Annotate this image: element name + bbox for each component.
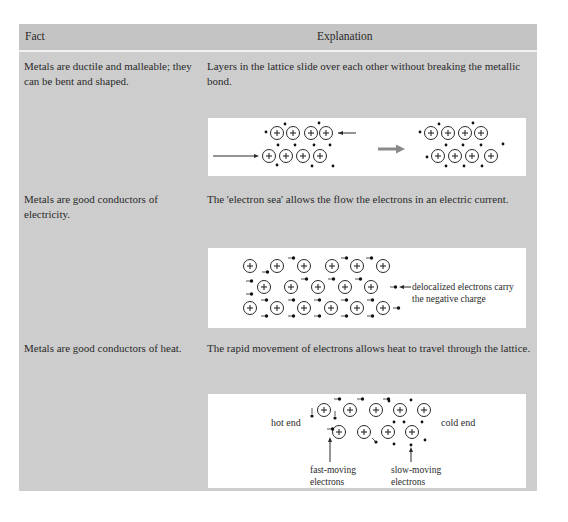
label-fast-electrons: electrons	[310, 477, 345, 487]
lattice-sliding-illustration	[208, 118, 526, 176]
explanation-ductile: Layers in the lattice slide over each ot…	[207, 59, 532, 89]
label-hot-end: hot end	[271, 417, 301, 428]
label-cold-end: cold end	[441, 417, 475, 428]
diagram-electron-flow: delocalized electrons carry the negative…	[208, 248, 526, 328]
fact-heat: Metals are good conductors of heat.	[24, 341, 194, 356]
electron-sea-illustration: delocalized electrons carry the negative…	[208, 248, 526, 328]
annotation-delocalized: delocalized electrons carry	[412, 282, 514, 292]
explanation-heat: The rapid movement of electrons allows h…	[207, 341, 532, 356]
facts-table: Fact Explanation Metals are ductile and …	[19, 24, 537, 491]
diagram-heat-conduction: hot end cold end fas	[208, 394, 526, 488]
annotation-negative-charge: the negative charge	[412, 294, 486, 304]
table-header: Fact Explanation	[19, 24, 537, 52]
fact-ductile: Metals are ductile and malleable; they c…	[24, 59, 194, 89]
header-explanation: Explanation	[317, 30, 373, 42]
label-slow-electrons: electrons	[391, 477, 426, 487]
heat-conduction-illustration: hot end cold end fas	[208, 394, 526, 488]
label-fast-moving: fast-moving	[310, 465, 356, 475]
diagram-layers-sliding	[208, 118, 526, 176]
fact-electricity: Metals are good conductors of electricit…	[24, 192, 194, 222]
explanation-electricity: The 'electron sea' allows the flow the e…	[207, 192, 532, 207]
header-fact: Fact	[25, 30, 45, 42]
label-slow-moving: slow-moving	[391, 465, 441, 475]
